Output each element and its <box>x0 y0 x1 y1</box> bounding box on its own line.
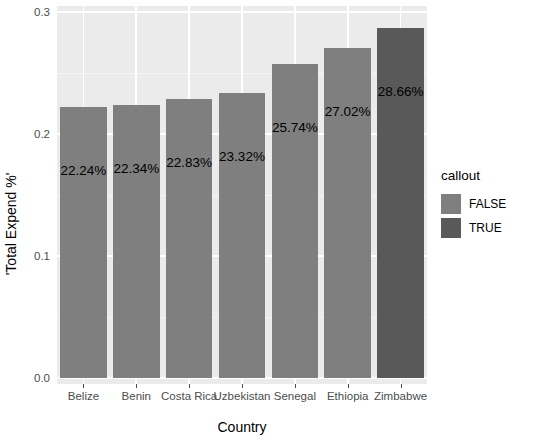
bar[interactable] <box>272 64 319 378</box>
bar-value-label: 23.32% <box>219 149 265 164</box>
bar-chart-figure: 'Total Expend %' 0.00.10.20.3 22.24%22.3… <box>0 0 554 448</box>
x-axis-tick-mark <box>401 384 402 388</box>
y-axis-tick-label: 0.1 <box>16 250 50 262</box>
plot-panel: 22.24%22.34%22.83%23.32%25.74%27.02%28.6… <box>57 6 427 384</box>
x-axis-tick-mark <box>136 384 137 388</box>
legend-title: callout <box>441 168 551 183</box>
bar[interactable] <box>60 107 107 378</box>
bar[interactable] <box>324 48 371 378</box>
x-axis-tick-labels: BelizeBeninCosta RicaUzbekistanSenegalEt… <box>57 384 427 414</box>
bar-value-label: 22.34% <box>113 161 159 176</box>
x-axis-tick-label: Costa Rica <box>161 390 217 402</box>
bar[interactable] <box>219 93 266 378</box>
bar-value-label: 22.83% <box>166 155 212 170</box>
x-axis-tick-mark <box>295 384 296 388</box>
x-axis-title: Country <box>57 419 427 435</box>
legend-item-label: FALSE <box>469 197 506 211</box>
legend: callout FALSETRUE <box>441 168 551 240</box>
x-axis-tick-label: Ethiopia <box>327 390 369 402</box>
legend-item[interactable]: TRUE <box>441 216 551 240</box>
y-axis-tick-label: 0.2 <box>16 128 50 140</box>
x-axis-tick-label: Zimbabwe <box>374 390 427 402</box>
x-axis-tick-mark <box>348 384 349 388</box>
legend-swatch <box>441 218 461 238</box>
bar-value-label: 28.66% <box>378 84 424 99</box>
legend-item[interactable]: FALSE <box>441 192 551 216</box>
x-axis-tick-label: Belize <box>68 390 99 402</box>
x-axis-tick-mark <box>242 384 243 388</box>
y-axis-tick-labels: 0.00.10.20.3 <box>16 0 50 448</box>
bar-value-label: 25.74% <box>272 120 318 135</box>
x-axis-tick-label: Benin <box>122 390 151 402</box>
bar[interactable] <box>377 28 424 378</box>
y-axis-tick-label: 0.3 <box>16 6 50 18</box>
bar-value-label: 22.24% <box>61 163 107 178</box>
x-axis-tick-label: Uzbekistan <box>214 390 271 402</box>
bar-value-label: 27.02% <box>325 104 371 119</box>
legend-item-label: TRUE <box>469 221 502 235</box>
legend-items: FALSETRUE <box>441 192 551 240</box>
bar[interactable] <box>166 99 213 378</box>
x-axis-tick-mark <box>83 384 84 388</box>
x-axis-tick-mark <box>189 384 190 388</box>
bar[interactable] <box>113 105 160 378</box>
y-axis-tick-label: 0.0 <box>16 372 50 384</box>
legend-swatch <box>441 194 461 214</box>
x-axis-tick-label: Senegal <box>274 390 316 402</box>
